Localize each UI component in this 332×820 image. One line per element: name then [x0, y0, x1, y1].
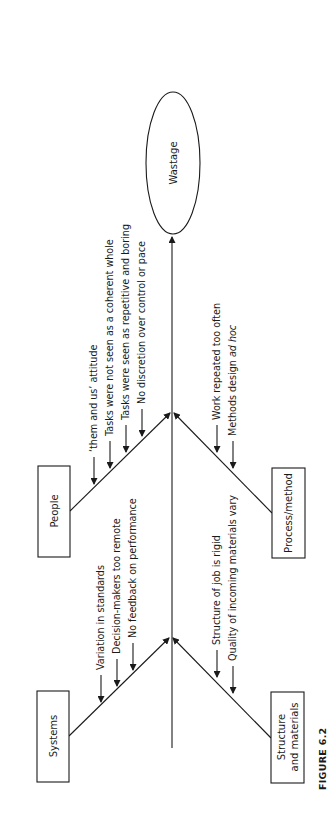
category-structure-materials: Structure and materials — [271, 692, 304, 783]
cause-text: Structure of job is rigid — [211, 535, 222, 645]
category-process-method: Process/method — [272, 468, 305, 558]
structure-label-line1: Structure — [276, 714, 287, 761]
figure-label: FIGURE 6.2 — [317, 728, 328, 790]
cause-text: Methods design ad hoc — [227, 324, 238, 436]
cause-text: Decision-makers too remote — [111, 518, 122, 654]
process-causes: Work repeated too often Methods design a… — [211, 303, 238, 468]
effect-label: Wastage — [168, 141, 179, 184]
structure-bone — [173, 638, 271, 738]
structure-causes: Structure of job is rigid Quality of inc… — [211, 495, 238, 693]
people-label: People — [49, 494, 60, 527]
cause-text-part: Methods design — [227, 357, 238, 436]
cause-text: Quality of incoming materials vary — [227, 495, 238, 661]
process-label: Process/method — [283, 473, 294, 553]
process-bone — [174, 413, 272, 513]
category-systems: Systems — [37, 691, 69, 782]
cause-text: Work repeated too often — [211, 303, 222, 420]
people-bone — [70, 413, 170, 511]
category-people: People — [38, 466, 70, 557]
fishbone-diagram: Wastage People ‘them and us’ attitude Ta… — [0, 0, 332, 820]
structure-label-line2: and materials — [289, 703, 300, 772]
cause-text-italic: ad hoc — [227, 324, 238, 357]
effect-wastage: Wastage — [146, 92, 200, 234]
systems-causes: Variation in standards Decision-makers t… — [95, 498, 138, 702]
cause-text: ‘them and us’ attitude — [88, 345, 99, 452]
systems-label: Systems — [48, 715, 59, 758]
cause-text: Tasks were seen as repetitive and boring — [120, 224, 131, 421]
cause-text: Tasks were not seen as a coherent whole — [104, 239, 115, 437]
cause-text: No discretion over control or pace — [136, 241, 147, 404]
cause-text: No feedback on performance — [127, 498, 138, 638]
people-causes: ‘them and us’ attitude Tasks were not se… — [88, 224, 147, 484]
cause-text: Variation in standards — [95, 565, 106, 670]
